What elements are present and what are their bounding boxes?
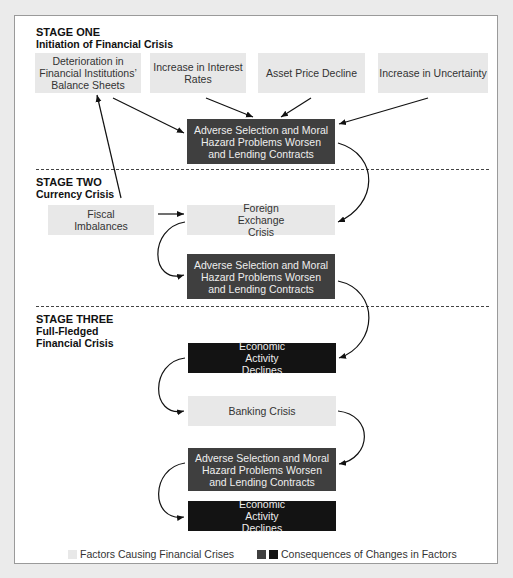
legend-swatch-consequence (257, 550, 266, 559)
connector-arrows (0, 0, 513, 578)
legend-label-consequences: Consequences of Changes in Factors (281, 548, 457, 560)
legend-item-consequences: Consequences of Changes in Factors (257, 548, 457, 560)
legend-swatch-factor (68, 550, 77, 559)
legend-swatch-consequence-dark (269, 550, 278, 559)
legend-item-factors: Factors Causing Financial Crises (68, 548, 234, 560)
legend-label-factors: Factors Causing Financial Crises (80, 548, 234, 560)
